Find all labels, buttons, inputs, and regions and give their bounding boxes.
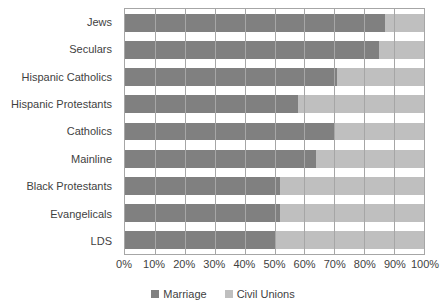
bar-segment-marriage[interactable] [125, 68, 337, 86]
stacked-bar[interactable] [125, 204, 424, 222]
stacked-bar[interactable] [125, 41, 424, 59]
bar-series-container [125, 9, 424, 254]
chart-legend: MarriageCivil Unions [0, 288, 446, 300]
bar-slot [125, 227, 424, 254]
axis-tick-label: 60% [294, 258, 316, 270]
bar-slot [125, 36, 424, 63]
stacked-bar[interactable] [125, 123, 424, 141]
axis-tick-label: 10% [143, 258, 165, 270]
bar-segment-marriage[interactable] [125, 177, 280, 195]
stacked-bar[interactable] [125, 177, 424, 195]
category-label: Hispanic Protestants [0, 90, 118, 117]
legend-swatch-icon [225, 290, 233, 298]
bar-segment-marriage[interactable] [125, 150, 316, 168]
category-label: Evangelicals [0, 200, 118, 227]
category-label: Catholics [0, 118, 118, 145]
axis-tick-label: 80% [354, 258, 376, 270]
bar-segment-civil-unions[interactable] [275, 231, 425, 249]
bar-segment-civil-unions[interactable] [379, 41, 424, 59]
axis-tick-label: 100% [411, 258, 439, 270]
stacked-bar[interactable] [125, 95, 424, 113]
bar-segment-civil-unions[interactable] [316, 150, 424, 168]
bar-segment-marriage[interactable] [125, 41, 379, 59]
axis-tick-label: 70% [324, 258, 346, 270]
bar-slot [125, 63, 424, 90]
axis-tick-label: 30% [203, 258, 225, 270]
bar-segment-civil-unions[interactable] [298, 95, 424, 113]
plot-area [124, 8, 425, 255]
stacked-bar[interactable] [125, 150, 424, 168]
bar-segment-civil-unions[interactable] [385, 14, 424, 32]
axis-tick-label: 20% [173, 258, 195, 270]
value-axis: 0%10%20%30%40%50%60%70%80%90%100% [124, 258, 425, 274]
category-label: Hispanic Catholics [0, 63, 118, 90]
axis-tick-label: 90% [384, 258, 406, 270]
bar-slot [125, 200, 424, 227]
category-label: Jews [0, 8, 118, 35]
legend-item[interactable]: Marriage [151, 288, 206, 300]
bar-slot [125, 145, 424, 172]
bar-segment-civil-unions[interactable] [334, 123, 424, 141]
bar-segment-marriage[interactable] [125, 95, 298, 113]
axis-tick-label: 40% [233, 258, 255, 270]
bar-segment-marriage[interactable] [125, 123, 334, 141]
legend-label: Marriage [163, 288, 206, 300]
legend-swatch-icon [151, 290, 159, 298]
bar-segment-civil-unions[interactable] [280, 204, 424, 222]
legend-label: Civil Unions [237, 288, 295, 300]
category-axis: JewsSecularsHispanic CatholicsHispanic P… [0, 8, 118, 255]
legend-item[interactable]: Civil Unions [225, 288, 295, 300]
stacked-bar-chart: JewsSecularsHispanic CatholicsHispanic P… [0, 0, 446, 308]
category-label: LDS [0, 228, 118, 255]
stacked-bar[interactable] [125, 68, 424, 86]
bar-slot [125, 91, 424, 118]
bar-slot [125, 9, 424, 36]
axis-tick-label: 0% [116, 258, 132, 270]
bar-segment-marriage[interactable] [125, 14, 385, 32]
bar-slot [125, 172, 424, 199]
bar-slot [125, 118, 424, 145]
stacked-bar[interactable] [125, 14, 424, 32]
category-label: Black Protestants [0, 173, 118, 200]
category-label: Seculars [0, 35, 118, 62]
stacked-bar[interactable] [125, 231, 424, 249]
axis-tick-label: 50% [263, 258, 285, 270]
bar-segment-civil-unions[interactable] [280, 177, 424, 195]
bar-segment-marriage[interactable] [125, 231, 275, 249]
category-label: Mainline [0, 145, 118, 172]
bar-segment-civil-unions[interactable] [337, 68, 424, 86]
bar-segment-marriage[interactable] [125, 204, 280, 222]
